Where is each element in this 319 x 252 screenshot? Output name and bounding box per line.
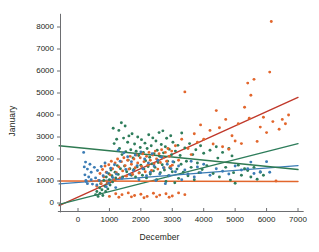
data-point — [221, 151, 224, 154]
data-point — [141, 167, 144, 170]
data-point — [158, 152, 161, 155]
data-point — [139, 156, 142, 159]
data-point — [158, 173, 161, 176]
data-point — [115, 173, 118, 176]
data-point — [224, 166, 227, 169]
data-point — [224, 118, 227, 121]
data-point — [176, 168, 179, 171]
data-point — [158, 194, 161, 197]
data-point — [116, 158, 119, 161]
data-point — [177, 159, 180, 162]
data-point — [124, 168, 127, 171]
data-point — [209, 149, 212, 152]
data-point — [183, 193, 186, 196]
data-point — [248, 117, 251, 120]
data-point — [165, 192, 168, 195]
data-point — [187, 173, 190, 176]
data-point — [154, 179, 157, 182]
data-point — [94, 193, 97, 196]
data-point — [231, 154, 234, 157]
data-point — [98, 179, 101, 182]
data-point — [240, 174, 243, 177]
data-point — [162, 166, 165, 169]
data-point — [100, 188, 103, 191]
data-point — [215, 109, 218, 112]
data-point — [278, 128, 281, 131]
data-point — [168, 174, 171, 177]
x-tick-label: 7000 — [278, 215, 318, 224]
data-point — [212, 172, 215, 175]
data-point — [145, 174, 148, 177]
data-point — [268, 171, 271, 174]
data-point — [177, 191, 180, 194]
data-point — [199, 144, 202, 147]
data-point — [201, 168, 204, 171]
data-point — [108, 195, 111, 198]
data-point — [83, 173, 86, 176]
data-point — [231, 134, 234, 137]
data-point — [209, 174, 212, 177]
data-point — [183, 147, 186, 150]
data-point — [240, 142, 243, 145]
data-point — [173, 181, 176, 184]
data-point — [131, 173, 134, 176]
data-point — [259, 170, 262, 173]
data-point — [177, 177, 180, 180]
data-point — [185, 160, 188, 163]
data-point — [127, 191, 130, 194]
data-point — [102, 179, 105, 182]
data-point — [249, 176, 252, 179]
data-point — [130, 160, 133, 163]
data-point — [166, 147, 169, 150]
data-point — [170, 167, 173, 170]
data-point — [105, 176, 108, 179]
data-point — [104, 190, 107, 193]
data-point — [156, 168, 159, 171]
data-point — [249, 94, 252, 97]
data-point — [202, 152, 205, 155]
data-point — [193, 178, 196, 181]
axes — [57, 14, 304, 213]
data-point — [122, 151, 125, 154]
data-point — [202, 138, 205, 141]
data-point — [229, 179, 232, 182]
data-point — [270, 20, 273, 23]
data-point — [120, 121, 123, 124]
data-point — [121, 193, 124, 196]
data-point — [100, 165, 103, 168]
data-point — [193, 176, 196, 179]
data-point — [101, 194, 104, 197]
data-point — [209, 129, 212, 132]
y-tick-label: 8000 — [8, 22, 54, 31]
data-point — [196, 162, 199, 165]
data-point — [97, 195, 100, 198]
data-point — [168, 155, 171, 158]
data-point — [148, 156, 151, 159]
data-point — [196, 141, 199, 144]
y-tick-label: 2000 — [8, 154, 54, 163]
data-point — [122, 156, 125, 159]
data-point — [86, 168, 89, 171]
data-point — [126, 155, 129, 158]
data-point — [171, 170, 174, 173]
data-point — [129, 148, 132, 151]
data-point — [139, 151, 142, 154]
data-point — [149, 171, 152, 174]
data-point — [190, 153, 193, 156]
data-point — [95, 190, 98, 193]
y-tick-label: 3000 — [8, 132, 54, 141]
data-point — [132, 169, 135, 172]
data-point — [256, 178, 259, 181]
data-point — [93, 166, 96, 169]
data-point — [147, 133, 150, 136]
y-tick-label: 1000 — [8, 176, 54, 185]
brick-regression — [59, 97, 298, 205]
data-point — [256, 140, 259, 143]
data-point — [99, 192, 102, 195]
data-point — [221, 145, 224, 148]
data-point — [115, 138, 118, 141]
data-point — [237, 122, 240, 125]
data-point — [158, 131, 161, 134]
data-point — [136, 162, 139, 165]
data-point — [90, 171, 93, 174]
